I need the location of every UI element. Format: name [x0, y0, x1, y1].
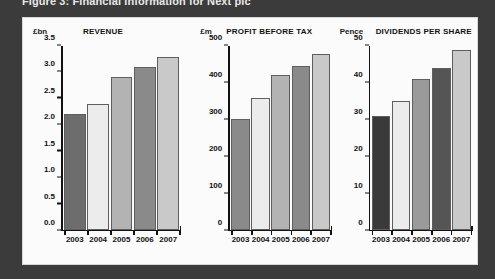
y-axis-tick-label: 400 — [209, 70, 222, 79]
bar-slot — [392, 46, 411, 230]
x-axis-tick-label: 2006 — [134, 235, 156, 244]
x-axis-tick — [64, 231, 66, 235]
y-axis-tick-label: 3.5 — [44, 33, 55, 42]
x-axis-tick — [431, 231, 433, 235]
bar-2005 — [271, 75, 290, 229]
x-axis-tick — [471, 231, 473, 235]
y-axis-tick — [365, 192, 369, 194]
x-axis-line — [61, 230, 181, 232]
x-axis-tick-label: 2007 — [312, 235, 331, 244]
y-axis-tick — [57, 123, 61, 125]
bar-2004 — [251, 98, 270, 229]
x-axis-tick — [231, 231, 233, 235]
y-axis-tick-label: 1.5 — [44, 138, 55, 147]
y-axis-tick-label: 2.0 — [44, 112, 55, 121]
chart-panel: £bn REVENUE 0.00.51.01.52.02.53.03.5 200… — [22, 17, 478, 265]
y-axis-tick — [224, 229, 228, 231]
chart-dividends-per-share-plot: 01020304050 20032004200520062007 — [369, 46, 473, 231]
x-axis-tick — [156, 231, 158, 235]
x-axis-tick-label: 2004 — [87, 235, 109, 244]
bar-slot — [271, 46, 290, 230]
chart-revenue: £bn REVENUE 0.00.51.01.52.02.53.03.5 200… — [23, 18, 194, 264]
x-axis-tick — [330, 231, 332, 235]
x-axis-tick-label: 2003 — [231, 235, 250, 244]
x-axis-tick — [110, 231, 112, 235]
y-axis-tick — [57, 150, 61, 152]
y-axis-tick — [57, 203, 61, 205]
bar-2007 — [452, 50, 471, 230]
y-axis-tick — [365, 229, 369, 231]
y-axis-tick — [224, 155, 228, 157]
y-axis-tick — [365, 155, 369, 157]
y-axis-line — [369, 46, 371, 231]
y-axis-tick — [224, 81, 228, 83]
x-axis-tick-label: 2005 — [111, 235, 133, 244]
bar-2004 — [392, 101, 411, 229]
bar-slot — [312, 46, 331, 230]
chart-profit-before-tax: £m PROFIT BEFORE TAX 0100200300400500 20… — [194, 18, 335, 264]
bar-2003 — [372, 116, 391, 230]
y-axis-tick-label: 2.5 — [44, 85, 55, 94]
x-axis-line — [369, 230, 473, 232]
x-axis-tick — [411, 231, 413, 235]
y-axis-tick-label: 0 — [218, 218, 222, 227]
y-axis-tick-label: 0 — [358, 218, 362, 227]
figure-root: Figure 3: Financial information for Next… — [0, 0, 495, 279]
chart-dividends-per-share-title: DIVIDENDS PER SHARE — [376, 27, 472, 36]
x-axis-tick — [291, 231, 293, 235]
y-axis-tick-label: 500 — [209, 33, 222, 42]
y-axis-tick-label: 300 — [209, 107, 222, 116]
y-axis-tick-label: 0.0 — [44, 218, 55, 227]
bar-slot — [87, 46, 109, 230]
bar-2007 — [312, 54, 331, 229]
bar-group — [231, 46, 330, 230]
x-axis-tick — [251, 231, 253, 235]
chart-profit-before-tax-plot: 0100200300400500 20032004200520062007 — [228, 46, 332, 231]
bar-2007 — [157, 57, 179, 230]
x-label-group: 20032004200520062007 — [231, 235, 330, 244]
bar-2003 — [231, 119, 250, 229]
x-label-group: 20032004200520062007 — [64, 235, 179, 244]
x-axis-tick — [451, 231, 453, 235]
y-axis-tick-label: 3.0 — [44, 59, 55, 68]
bar-2006 — [292, 66, 311, 229]
figure-caption: Figure 3: Financial information for Next… — [22, 0, 442, 8]
y-axis-tick-label: 20 — [354, 144, 363, 153]
y-axis-tick — [365, 81, 369, 83]
bar-slot — [134, 46, 156, 230]
x-axis-tick — [310, 231, 312, 235]
bar-slot — [157, 46, 179, 230]
bar-slot — [412, 46, 431, 230]
y-axis-tick — [224, 118, 228, 120]
bar-slot — [292, 46, 311, 230]
x-axis-tick-label: 2003 — [372, 235, 391, 244]
x-axis-tick-label: 2007 — [452, 235, 471, 244]
y-axis-tick — [57, 176, 61, 178]
bar-2006 — [432, 68, 451, 229]
y-axis-tick — [224, 192, 228, 194]
y-axis-tick-label: 30 — [354, 107, 363, 116]
bar-2005 — [412, 79, 431, 229]
bar-slot — [64, 46, 86, 230]
charts-row: £bn REVENUE 0.00.51.01.52.02.53.03.5 200… — [23, 18, 477, 264]
y-axis-tick — [57, 229, 61, 231]
x-axis-tick — [87, 231, 89, 235]
y-axis-tick-label: 40 — [354, 70, 363, 79]
bar-slot — [111, 46, 133, 230]
bar-slot — [372, 46, 391, 230]
x-axis-tick-label: 2005 — [412, 235, 431, 244]
x-axis-tick — [372, 231, 374, 235]
y-axis-tick — [57, 44, 61, 46]
chart-revenue-plot: 0.00.51.01.52.02.53.03.5 200320042005200… — [61, 46, 181, 231]
bar-2005 — [111, 77, 133, 229]
y-axis-tick — [365, 44, 369, 46]
y-axis-tick — [365, 118, 369, 120]
bar-slot — [432, 46, 451, 230]
x-axis-tick — [271, 231, 273, 235]
x-label-group: 20032004200520062007 — [372, 235, 471, 244]
y-axis-tick-label: 50 — [354, 33, 363, 42]
x-axis-tick-label: 2005 — [271, 235, 290, 244]
y-axis-tick — [57, 97, 61, 99]
x-axis-tick-label: 2006 — [292, 235, 311, 244]
y-axis-line — [228, 46, 230, 231]
